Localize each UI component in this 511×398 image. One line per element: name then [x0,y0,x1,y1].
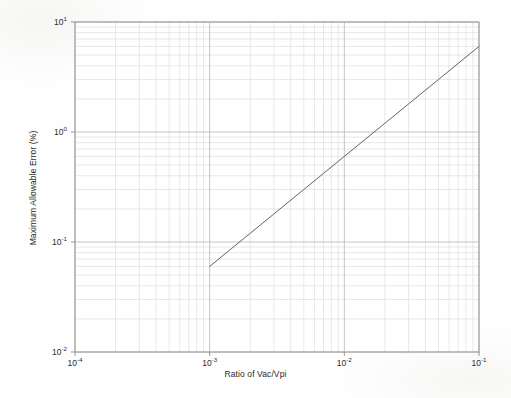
y-tick-label-2: 10-1 [52,237,67,247]
y-tick-label-1: 100 [54,127,67,137]
x-tick-label-3: 10-1 [472,358,487,368]
y-axis-title: Maximum Allowable Error (%) [28,108,38,268]
log-log-plot [0,0,511,398]
y-tick-label-3: 10-2 [52,347,67,357]
x-axis-title: Ratio of Vac/Vpi [0,369,511,379]
x-tick-label-0: 10-4 [68,358,83,368]
x-tick-label-1: 10-3 [202,358,217,368]
figure-canvas: Maximum Allowable Error (%) Ratio of Vac… [0,0,511,398]
x-tick-label-2: 10-2 [337,358,352,368]
y-tick-label-0: 101 [54,17,67,27]
